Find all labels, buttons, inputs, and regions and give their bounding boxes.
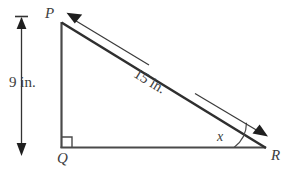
triangle-diagram-svg: [0, 0, 290, 183]
height-arrowhead-up-icon: [17, 17, 27, 29]
vertex-label-r: R: [271, 148, 280, 163]
vertex-label-p: P: [45, 6, 54, 21]
geometry-figure: P Q R 9 in. 15 in. x: [0, 0, 290, 183]
right-angle-marker-icon: [62, 137, 73, 148]
hypotenuse-dimension-shaft-lower: [195, 94, 258, 132]
hypotenuse-dimension-shaft-upper: [72, 19, 149, 66]
height-arrowhead-down-icon: [17, 143, 27, 156]
hypotenuse-arrowhead-downright-icon: [253, 124, 269, 136]
angle-arc-icon: [234, 123, 247, 148]
angle-label-x: x: [217, 130, 223, 144]
hypotenuse-arrowhead-upleft-icon: [67, 13, 83, 24]
height-dimension-label: 9 in.: [9, 75, 36, 90]
vertex-label-q: Q: [57, 151, 68, 166]
